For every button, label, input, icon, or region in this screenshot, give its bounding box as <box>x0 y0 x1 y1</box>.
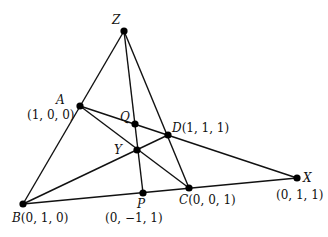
projective-geometry-diagram: Z A (1, 0, 0) Q D(1, 1, 1) Y B(0, 1, 0) … <box>0 0 328 237</box>
label-C-coords: (0, 0, 1) <box>188 193 236 207</box>
labels: Z A (1, 0, 0) Q D(1, 1, 1) Y B(0, 1, 0) … <box>11 13 324 225</box>
point-D <box>164 131 171 138</box>
label-Z: Z <box>111 13 121 27</box>
point-X <box>293 174 300 181</box>
point-B <box>19 200 26 207</box>
label-X: X <box>302 171 312 185</box>
point-A <box>76 102 83 109</box>
label-C: C(0, 0, 1) <box>179 193 236 207</box>
point-C <box>185 184 192 191</box>
label-A: A <box>55 93 65 107</box>
label-Y: Y <box>114 143 123 157</box>
label-B-name: B <box>11 211 21 225</box>
label-X-coords: (0, 1, 1) <box>276 188 324 202</box>
point-Q <box>131 120 138 127</box>
label-B-coords: (0, 1, 0) <box>21 211 69 225</box>
point-Z <box>120 27 127 34</box>
label-C-name: C <box>179 193 188 207</box>
label-P-coords: (0, −1, 1) <box>105 211 163 225</box>
line-A-Q-D-X <box>80 106 297 178</box>
label-D: D(1, 1, 1) <box>171 121 229 135</box>
line-B-P-C-X <box>23 178 297 204</box>
label-D-coords: (1, 1, 1) <box>182 121 230 135</box>
label-Q: Q <box>120 110 130 124</box>
point-Y <box>133 146 140 153</box>
label-P: P <box>136 197 146 211</box>
point-P <box>139 189 146 196</box>
label-B: B(0, 1, 0) <box>11 211 68 225</box>
label-A-coords: (1, 0, 0) <box>27 108 75 122</box>
label-D-name: D <box>171 121 182 135</box>
